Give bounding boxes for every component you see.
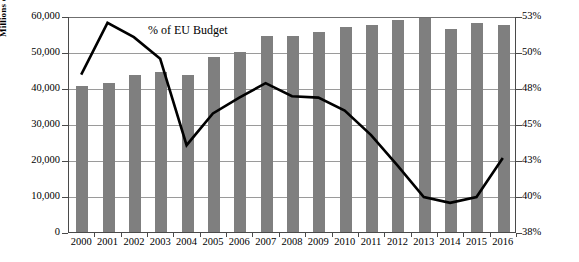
gridline bbox=[69, 17, 515, 18]
x-tickmark bbox=[516, 233, 517, 237]
y-tick-left-40000: 40,000 bbox=[8, 82, 60, 93]
y-tick-left-0: 0 bbox=[8, 226, 60, 237]
bar-2015 bbox=[471, 23, 483, 232]
bar-2001 bbox=[103, 83, 115, 232]
plot-area bbox=[68, 17, 516, 233]
bar-2010 bbox=[340, 27, 352, 232]
bar-2005 bbox=[208, 57, 220, 232]
y-tickmark-right bbox=[516, 89, 522, 90]
bar-2016 bbox=[498, 25, 510, 232]
y-tick-right-43: 43% bbox=[522, 154, 541, 165]
y-tickmark-left bbox=[62, 125, 68, 126]
y-tickmark-right bbox=[516, 125, 522, 126]
bar-2004 bbox=[182, 75, 194, 232]
bar-2006 bbox=[234, 52, 246, 232]
y-tick-right-38: 38% bbox=[522, 226, 541, 237]
bar-2009 bbox=[313, 32, 325, 232]
y-tick-right-50: 50% bbox=[522, 46, 541, 57]
chart-container: Millions of Euros 010,00020,00030,00040,… bbox=[0, 0, 579, 262]
y-tickmark-left bbox=[62, 161, 68, 162]
y-tick-left-50000: 50,000 bbox=[8, 46, 60, 57]
y-tick-left-20000: 20,000 bbox=[8, 154, 60, 165]
y-tick-right-40: 40% bbox=[522, 190, 541, 201]
y-axis-left-title: Millions of Euros bbox=[0, 0, 8, 62]
bar-2002 bbox=[129, 75, 141, 232]
y-tickmark-left bbox=[62, 53, 68, 54]
y-tickmark-right bbox=[516, 161, 522, 162]
bar-2014 bbox=[445, 29, 457, 232]
line-series-annotation: % of EU Budget bbox=[148, 23, 228, 38]
y-tick-left-10000: 10,000 bbox=[8, 190, 60, 201]
y-tickmark-left bbox=[62, 89, 68, 90]
y-tickmark-right bbox=[516, 197, 522, 198]
y-tickmark-right bbox=[516, 53, 522, 54]
y-tick-left-30000: 30,000 bbox=[8, 118, 60, 129]
y-tick-right-48: 48% bbox=[522, 82, 541, 93]
y-tickmark-left bbox=[62, 17, 68, 18]
bar-2000 bbox=[76, 86, 88, 232]
bar-2011 bbox=[366, 25, 378, 232]
bar-2003 bbox=[155, 72, 167, 232]
y-tickmark-left bbox=[62, 197, 68, 198]
x-tick-2016: 2016 bbox=[483, 236, 523, 247]
y-tick-right-53: 53% bbox=[522, 10, 541, 21]
bar-2013 bbox=[419, 18, 431, 232]
bar-2007 bbox=[261, 36, 273, 232]
bar-2012 bbox=[392, 20, 404, 232]
y-tick-right-45: 45% bbox=[522, 118, 541, 129]
y-tick-left-60000: 60,000 bbox=[8, 10, 60, 21]
y-tickmark-left bbox=[62, 233, 68, 234]
y-tickmark-right bbox=[516, 17, 522, 18]
bar-2008 bbox=[287, 36, 299, 232]
